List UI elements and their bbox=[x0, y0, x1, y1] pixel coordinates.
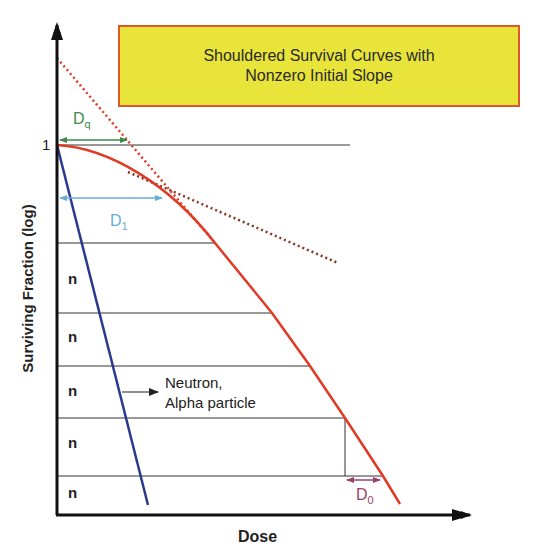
neutron-text: Neutron, bbox=[165, 373, 256, 393]
x-axis-label: Dose bbox=[238, 528, 277, 546]
reference-lines bbox=[57, 145, 383, 476]
band-label: n bbox=[68, 382, 77, 399]
shouldered-curve bbox=[57, 145, 400, 504]
d1-label: D1 bbox=[110, 212, 128, 232]
band-label: n bbox=[68, 328, 77, 345]
y-axis-label: Surviving Fraction (log) bbox=[19, 189, 36, 389]
dq-label: Dq bbox=[73, 110, 91, 130]
title-line-1: Shouldered Survival Curves with bbox=[203, 46, 434, 66]
x-axis-arrowhead bbox=[452, 509, 472, 521]
band-label: n bbox=[68, 484, 77, 501]
initial-slope-line bbox=[128, 172, 338, 263]
title-box: Shouldered Survival Curves with Nonzero … bbox=[118, 25, 520, 107]
neutron-annotation: Neutron, Alpha particle bbox=[165, 373, 256, 413]
y-axis-arrowhead bbox=[51, 22, 63, 40]
title-line-2: Nonzero Initial Slope bbox=[245, 66, 393, 86]
neutron-line bbox=[57, 145, 148, 505]
y-tick-one: 1 bbox=[42, 136, 50, 153]
band-label: n bbox=[68, 434, 77, 451]
alpha-text: Alpha particle bbox=[165, 393, 256, 413]
d0-label: D0 bbox=[356, 486, 374, 506]
band-label: n bbox=[68, 270, 77, 287]
